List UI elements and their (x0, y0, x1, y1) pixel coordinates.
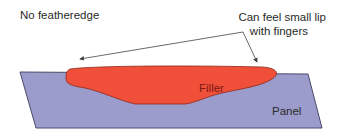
label-filler: Filler (199, 82, 224, 95)
label-no-featheredge: No featheredge (20, 9, 99, 22)
label-panel: Panel (272, 105, 301, 118)
featheredge-diagram: No featheredge Can feel small lip with f… (0, 0, 337, 139)
label-lip-line1: Can feel small lip (218, 11, 326, 24)
label-lip-line2: with fingers (218, 25, 308, 38)
